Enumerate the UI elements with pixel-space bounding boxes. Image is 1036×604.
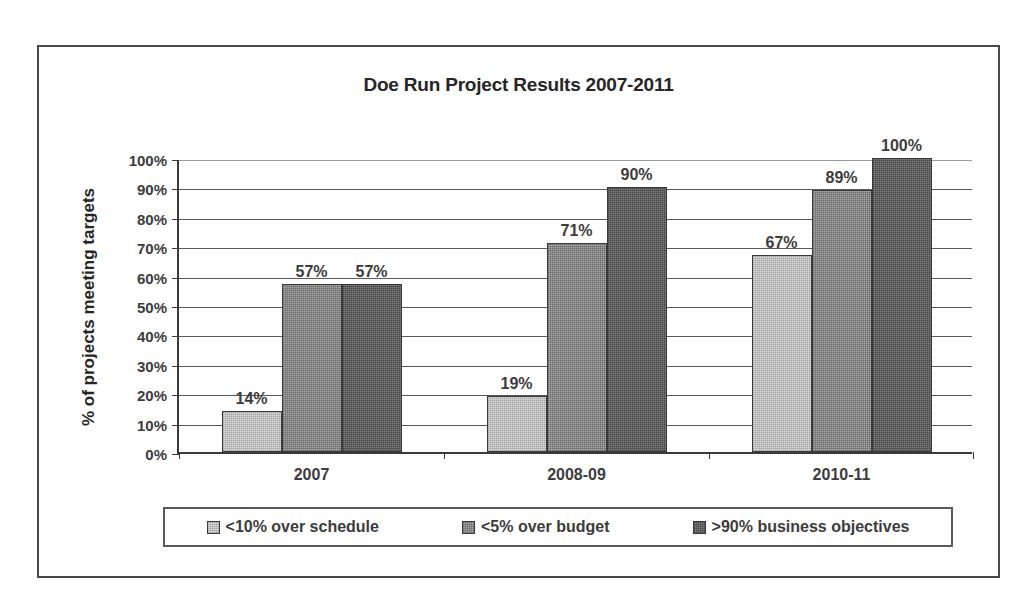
bar[interactable]: 89%: [812, 190, 872, 452]
y-axis-tick-label: 50%: [137, 299, 167, 316]
y-axis-tick: [172, 395, 179, 396]
y-axis-title: % of projects meeting targets: [79, 107, 99, 507]
x-axis-tick: [973, 452, 974, 459]
bar[interactable]: 14%: [222, 411, 282, 452]
bar-value-label: 89%: [825, 169, 857, 187]
bar-value-label: 90%: [620, 166, 652, 184]
y-axis-tick-label: 20%: [137, 387, 167, 404]
chart-legend: <10% over schedule<5% over budget>90% bu…: [163, 507, 953, 547]
y-axis-tick: [172, 189, 179, 190]
bar[interactable]: 19%: [487, 396, 547, 452]
y-axis-tick-label: 60%: [137, 269, 167, 286]
bar[interactable]: 100%: [872, 158, 932, 452]
y-axis-tick: [172, 454, 179, 455]
bar-value-label: 57%: [295, 263, 327, 281]
bar[interactable]: 67%: [752, 255, 812, 452]
bar-value-label: 19%: [500, 375, 532, 393]
y-axis-tick: [172, 307, 179, 308]
category-group: 19%71%90%2008-09: [444, 160, 709, 452]
legend-item[interactable]: <5% over budget: [462, 518, 609, 536]
legend-item[interactable]: >90% business objectives: [693, 518, 910, 536]
y-axis-tick-label: 90%: [137, 181, 167, 198]
bar-group: 67%89%100%: [752, 160, 932, 452]
y-axis-tick-label: 40%: [137, 328, 167, 345]
legend-label: <10% over schedule: [226, 518, 379, 536]
x-axis-tick-label: 2007: [294, 466, 330, 484]
plot-area: 100%90%80%70%60%50%40%30%20%10%0%14%57%5…: [177, 160, 972, 454]
y-axis-tick-label: 100%: [129, 152, 167, 169]
chart-frame: Doe Run Project Results 2007-2011 % of p…: [37, 45, 1000, 578]
bar-value-label: 14%: [235, 390, 267, 408]
y-axis-tick-label: 10%: [137, 416, 167, 433]
category-group: 67%89%100%2010-11: [709, 160, 974, 452]
legend-swatch-icon: [462, 521, 475, 534]
bar[interactable]: 57%: [282, 284, 342, 452]
x-axis-tick-label: 2008-09: [547, 466, 606, 484]
bar-group: 14%57%57%: [222, 160, 402, 452]
x-axis-tick: [444, 452, 445, 459]
legend-label: >90% business objectives: [712, 518, 910, 536]
x-axis-tick: [709, 452, 710, 459]
x-axis-tick-label: 2010-11: [813, 466, 871, 484]
legend-item[interactable]: <10% over schedule: [207, 518, 379, 536]
y-axis-tick-label: 70%: [137, 240, 167, 257]
y-axis-tick-label: 30%: [137, 357, 167, 374]
bar-value-label: 57%: [355, 263, 387, 281]
y-axis-tick: [172, 219, 179, 220]
bar-value-label: 71%: [560, 222, 592, 240]
y-axis-tick: [172, 278, 179, 279]
legend-swatch-icon: [207, 521, 220, 534]
y-axis-tick-label: 80%: [137, 210, 167, 227]
y-axis-tick: [172, 425, 179, 426]
chart-title: Doe Run Project Results 2007-2011: [39, 74, 998, 96]
y-axis-tick: [172, 248, 179, 249]
legend-swatch-icon: [693, 521, 706, 534]
x-axis-tick: [179, 452, 180, 459]
legend-label: <5% over budget: [481, 518, 609, 536]
y-axis-tick: [172, 336, 179, 337]
y-axis-tick-label: 0%: [145, 446, 167, 463]
bar-value-label: 67%: [765, 234, 797, 252]
y-axis-tick: [172, 160, 179, 161]
bar-group: 19%71%90%: [487, 160, 667, 452]
bar[interactable]: 57%: [342, 284, 402, 452]
y-axis-tick: [172, 366, 179, 367]
category-group: 14%57%57%2007: [179, 160, 444, 452]
bar-value-label: 100%: [881, 137, 922, 155]
bar[interactable]: 90%: [607, 187, 667, 452]
bar[interactable]: 71%: [547, 243, 607, 452]
